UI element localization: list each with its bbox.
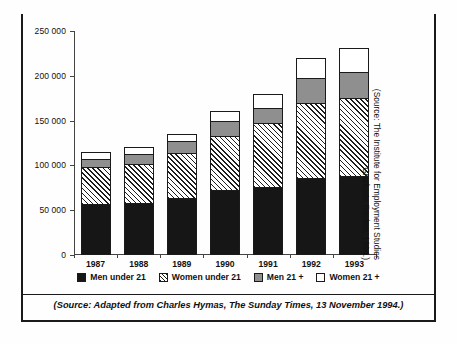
bar-1991	[253, 31, 283, 255]
x-axis-label-1991: 1991	[247, 259, 290, 269]
bar-segment-men-u21-1987	[81, 204, 111, 255]
y-axis-tick	[70, 76, 75, 77]
x-axis-label-1993: 1993	[333, 259, 376, 269]
bar-segment-men-21p-1989	[167, 141, 197, 154]
bar-segment-men-21p-1987	[81, 159, 111, 168]
bar-segment-men-u21-1989	[167, 198, 197, 255]
y-axis-tick	[70, 121, 75, 122]
solid-black-swatch	[77, 273, 86, 282]
solid-grey-swatch	[254, 273, 263, 282]
bar-segment-men-u21-1988	[124, 203, 154, 255]
x-axis-label-1988: 1988	[117, 259, 160, 269]
legend-item-label: Men under 21	[90, 272, 145, 282]
bar-segment-women-21p-1991	[253, 94, 283, 109]
bar-segment-men-21p-1990	[210, 121, 240, 137]
source-note-bottom: (Source: Adapted from Charles Hymas, The…	[0, 300, 457, 310]
x-axis-label-1992: 1992	[290, 259, 333, 269]
bar-segment-men-u21-1991	[253, 187, 283, 255]
y-axis-tick-label: 200 000	[35, 71, 66, 81]
x-axis-tick	[117, 254, 118, 258]
x-axis-tick	[333, 254, 334, 258]
y-axis-tick	[70, 165, 75, 166]
x-axis-tick	[203, 254, 204, 258]
x-axis-label-1987: 1987	[74, 259, 117, 269]
x-axis-tick	[290, 254, 291, 258]
x-axis-label-1990: 1990	[203, 259, 246, 269]
legend-item-label: Women 21 +	[329, 272, 379, 282]
bar-1989	[167, 31, 197, 255]
bar-segment-women-21p-1990	[210, 111, 240, 122]
y-axis-tick-label: 150 000	[35, 116, 66, 126]
bar-segment-women-u21-1990	[210, 136, 240, 192]
y-axis-tick-label: 100 000	[35, 160, 66, 170]
frame-bottom-rule	[21, 320, 436, 322]
bar-segment-men-u21-1992	[296, 178, 326, 255]
y-axis-tick	[70, 210, 75, 211]
bar-1992	[296, 31, 326, 255]
legend-item-women-u21: Women under 21	[159, 272, 241, 282]
bar-segment-women-u21-1991	[253, 123, 283, 188]
bar-segment-women-21p-1988	[124, 147, 154, 155]
outline-white-swatch	[316, 273, 325, 282]
bar-segment-women-21p-1989	[167, 134, 197, 142]
bar-1988	[124, 31, 154, 255]
bar-segment-women-21p-1992	[296, 58, 326, 80]
legend-item-label: Men 21 +	[267, 272, 304, 282]
plot-area	[74, 31, 376, 255]
x-axis-label-1989: 1989	[160, 259, 203, 269]
bar-segment-men-21p-1991	[253, 108, 283, 124]
bar-segment-women-u21-1988	[124, 164, 154, 204]
y-axis-tick	[70, 255, 75, 256]
legend-item-men-21p: Men 21 +	[254, 272, 304, 282]
y-axis-tick-label: 250 000	[35, 26, 66, 36]
legend-item-women-21p: Women 21 +	[316, 272, 379, 282]
x-axis-tick	[160, 254, 161, 258]
source-note-side: (Source: The Institute for Employment St…	[336, 28, 382, 260]
bar-segment-women-u21-1992	[296, 103, 326, 178]
bar-1987	[81, 31, 111, 255]
bar-segment-women-u21-1989	[167, 153, 197, 199]
bar-segment-women-u21-1987	[81, 167, 111, 205]
y-axis-tick-label: 50 000	[39, 205, 66, 215]
bar-segment-men-21p-1988	[124, 154, 154, 165]
legend-item-men-u21: Men under 21	[77, 272, 145, 282]
diagonal-hatch-swatch	[159, 273, 168, 282]
y-axis-tick	[70, 31, 75, 32]
chart-legend: Men under 21Women under 21Men 21 +Women …	[0, 272, 457, 282]
y-axis-tick-label: 0	[61, 250, 66, 260]
chart-figure: 050 000100 000150 000200 000250 000 1987…	[0, 0, 457, 345]
bar-segment-women-21p-1987	[81, 152, 111, 160]
legend-separator-rule	[23, 294, 434, 295]
x-axis-tick	[247, 254, 248, 258]
bar-1990	[210, 31, 240, 255]
legend-item-label: Women under 21	[172, 272, 241, 282]
bar-segment-men-21p-1992	[296, 78, 326, 104]
bar-segment-men-u21-1990	[210, 190, 240, 255]
y-axis-labels: 050 000100 000150 000200 000250 000	[0, 0, 66, 260]
